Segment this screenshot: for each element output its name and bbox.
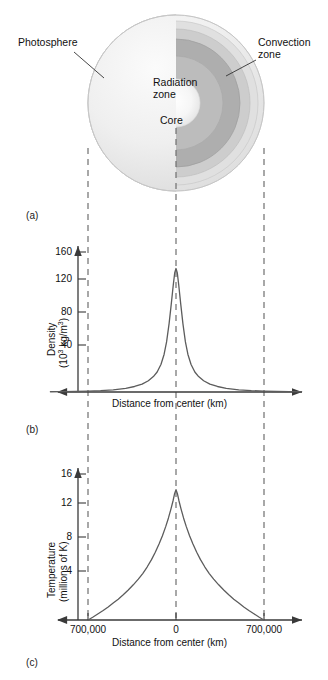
core-label: Core: [160, 114, 183, 126]
unit-post: ): [58, 318, 69, 321]
photosphere-label: Photosphere: [18, 36, 78, 48]
density-ytick-80: 80: [38, 306, 72, 317]
sun-cutaway-diagram: [74, 15, 264, 191]
density-ytick-40: 40: [38, 339, 72, 350]
radius-guide-lines: [88, 128, 264, 620]
temperature-curve: [88, 490, 264, 620]
temperature-x-ticks: [88, 613, 264, 620]
temperature-xtick-right: 700,000: [224, 624, 304, 635]
temperature-y-ticks: [78, 474, 86, 571]
temperature-ytick-12: 12: [44, 497, 72, 508]
radiation-zone-label: Radiation zone: [153, 76, 197, 100]
panel-label-c: (c): [26, 657, 38, 668]
panel-label-b: (b): [26, 424, 39, 435]
density-ytick-120: 120: [38, 273, 72, 284]
panel-label-a: (a): [26, 210, 39, 221]
unit-sup1: 3: [57, 350, 64, 354]
temperature-x-axis-title: Distance from center (km): [112, 637, 227, 648]
convection-zone-label: Convection zone: [258, 36, 311, 60]
temperature-xtick-left: 700,000: [48, 624, 128, 635]
temperature-xtick-center: 0: [156, 624, 196, 635]
temperature-chart: [58, 468, 302, 620]
unit-pre: (10: [58, 354, 69, 368]
sun-structure-figure: Photosphere Convection zone Radiation zo…: [0, 0, 328, 680]
density-x-axis-title: Distance from center (km): [112, 398, 227, 409]
density-y-ticks: [78, 252, 86, 345]
density-ytick-160: 160: [38, 246, 72, 257]
temperature-ytick-4: 4: [44, 565, 72, 576]
temperature-ytick-8: 8: [44, 531, 72, 542]
unit-sup2: 3: [57, 321, 64, 325]
temperature-ytick-16: 16: [44, 468, 72, 479]
